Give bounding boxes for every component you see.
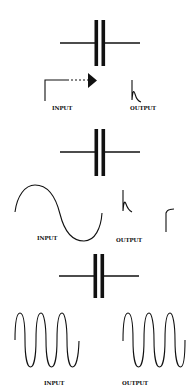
high-frequency-input-waveform bbox=[15, 313, 79, 367]
output-label-1: OUTPUT bbox=[130, 105, 157, 111]
panel-step: INPUT OUTPUT bbox=[45, 20, 157, 111]
input-label-2: INPUT bbox=[37, 235, 58, 241]
output-label-2: OUTPUT bbox=[116, 237, 143, 243]
spike-output-waveform-2 bbox=[123, 190, 174, 232]
output-label-3: OUTPUT bbox=[122, 380, 149, 386]
input-label-3: INPUT bbox=[44, 380, 65, 386]
sine-input-waveform bbox=[15, 185, 102, 241]
capacitor-symbol-2 bbox=[60, 129, 140, 176]
step-input-waveform bbox=[45, 73, 97, 101]
arrow-right-icon bbox=[88, 73, 97, 88]
input-label-1: INPUT bbox=[52, 105, 73, 111]
panel-low-frequency: INPUT OUTPUT bbox=[15, 129, 174, 243]
high-frequency-output-waveform bbox=[123, 313, 185, 367]
capacitor-coupling-diagram: INPUT OUTPUT INPUT OUTPUT bbox=[0, 0, 195, 386]
capacitor-symbol-3 bbox=[59, 254, 139, 298]
capacitor-symbol-1 bbox=[60, 20, 140, 66]
spike-output-waveform bbox=[132, 80, 141, 102]
panel-high-frequency: INPUT OUTPUT bbox=[15, 254, 185, 386]
